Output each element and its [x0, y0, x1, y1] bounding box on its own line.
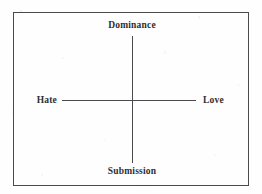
- axis-label-dominance: Dominance: [108, 21, 156, 31]
- figure-canvas: Dominance Submission Hate Love: [0, 0, 262, 194]
- axis-label-submission: Submission: [108, 167, 156, 177]
- axis-label-love: Love: [203, 96, 224, 106]
- horizontal-axis-line: [62, 100, 196, 102]
- axis-label-hate: Hate: [37, 96, 57, 106]
